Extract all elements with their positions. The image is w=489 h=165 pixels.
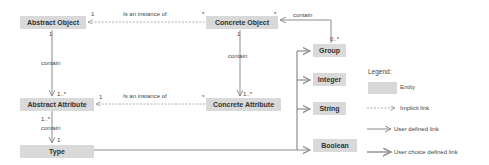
mult-ca-up: 1..* — [243, 91, 252, 97]
mult-aa-down: 1..* — [41, 116, 50, 122]
link-label-contain-left-top: contain — [41, 60, 60, 66]
mult-co-down: 1 — [237, 31, 240, 37]
legend-title: Legend: — [368, 68, 392, 75]
legend-user-defined-link: User defined link — [394, 126, 439, 132]
mult-co-group: * — [274, 11, 276, 17]
entity-boolean[interactable]: Boolean — [313, 139, 357, 152]
entity-string[interactable]: String — [313, 102, 346, 115]
link-label-contain-right: contain — [228, 53, 247, 59]
link-label-contain-group: contain — [293, 12, 312, 18]
link-label-instance-bottom: Is an instance of — [123, 93, 167, 99]
legend-implicit-link: Implicit link — [400, 105, 429, 111]
mult-co-instance: * — [202, 11, 204, 17]
entity-abstract-object[interactable]: Abstract Object — [20, 16, 86, 29]
entity-abstract-attribute[interactable]: Abstract Attribute — [20, 98, 94, 111]
link-label-contain-left-bottom: contain — [41, 125, 60, 131]
legend-entity: Entity — [400, 84, 415, 90]
mult-ao-down: 1 — [49, 31, 52, 37]
entity-concrete-attribute[interactable]: Concrete Attribute — [206, 98, 281, 111]
entity-type[interactable]: Type — [20, 145, 94, 158]
entity-concrete-object[interactable]: Concrete Object — [206, 16, 278, 29]
mult-ca-instance: * — [202, 94, 204, 100]
mult-aa-instance: 1 — [99, 94, 102, 100]
legend-entity-swatch — [368, 82, 397, 94]
entity-group[interactable]: Group — [313, 44, 346, 57]
mult-ao-instance: 1 — [91, 11, 94, 17]
entity-integer[interactable]: Integer — [313, 73, 346, 86]
link-label-instance-top: Is an instance of — [123, 11, 167, 17]
legend-user-choice-link: User choice defined link — [394, 149, 458, 155]
mult-group-co: 0..* — [330, 36, 339, 42]
mult-type-up: 1 — [57, 137, 60, 143]
mult-aa-up: 1..* — [57, 91, 66, 97]
